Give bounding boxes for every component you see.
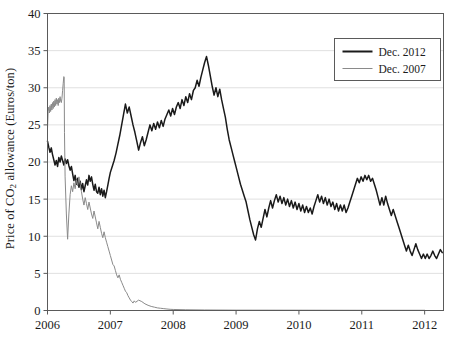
x-tick-label: 2012 bbox=[412, 318, 437, 332]
x-tick-label: 2008 bbox=[161, 318, 186, 332]
x-tick-label: 2009 bbox=[224, 318, 249, 332]
plot-svg: 0510152025303540 20062007200820092010201… bbox=[0, 0, 456, 346]
legend-label-2: Dec. 2007 bbox=[379, 63, 427, 75]
grid-lines bbox=[48, 51, 444, 274]
x-tick-label: 2006 bbox=[35, 318, 60, 332]
series-layer bbox=[48, 57, 443, 311]
y-tick-label: 10 bbox=[28, 230, 41, 244]
y-tick-label: 15 bbox=[28, 193, 41, 207]
legend[interactable]: Dec. 2012Dec. 2007 bbox=[335, 39, 441, 81]
co2-price-chart: Price of CO2 allowance (Euros/ton) 05101… bbox=[0, 0, 456, 346]
y-tick-label: 20 bbox=[28, 155, 41, 169]
x-tick-label: 2010 bbox=[286, 318, 311, 332]
series-line-1 bbox=[48, 57, 443, 259]
x-axis-ticks: 2006200720082009201020112012 bbox=[35, 311, 437, 332]
y-tick-label: 35 bbox=[28, 44, 41, 58]
x-tick-label: 2011 bbox=[350, 318, 375, 332]
y-tick-label: 30 bbox=[28, 81, 41, 95]
y-axis-ticks: 0510152025303540 bbox=[28, 7, 48, 318]
y-tick-label: 25 bbox=[28, 118, 41, 132]
x-tick-label: 2007 bbox=[98, 318, 123, 332]
y-tick-label: 40 bbox=[28, 7, 41, 21]
y-tick-label: 5 bbox=[34, 267, 40, 281]
y-tick-label: 0 bbox=[34, 304, 40, 318]
legend-label-1: Dec. 2012 bbox=[379, 46, 427, 58]
